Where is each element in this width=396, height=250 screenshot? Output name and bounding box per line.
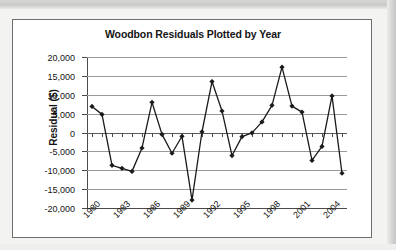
data-point-marker bbox=[279, 65, 284, 70]
x-axis-tick-label: 1980 bbox=[81, 199, 102, 220]
y-axis-tick-label: -10,000 bbox=[44, 166, 75, 176]
y-axis-tick-label: 5,000 bbox=[52, 110, 75, 120]
y-axis-tick-label: -5,000 bbox=[49, 147, 75, 157]
scan-band-right bbox=[387, 0, 396, 250]
data-point-marker bbox=[129, 169, 134, 174]
data-point-marker bbox=[199, 129, 204, 134]
series-polyline bbox=[92, 67, 342, 200]
y-axis-tick-label: 10,000 bbox=[47, 91, 75, 101]
data-point-marker bbox=[229, 153, 234, 158]
data-point-marker bbox=[159, 132, 164, 137]
data-series-line bbox=[87, 57, 347, 208]
scan-band-top bbox=[0, 0, 396, 9]
y-axis-tick-label: 20,000 bbox=[47, 53, 75, 63]
data-point-marker bbox=[119, 166, 124, 171]
data-point-marker bbox=[189, 197, 194, 202]
data-point-marker bbox=[329, 93, 334, 98]
y-axis-tick-label: -20,000 bbox=[44, 204, 75, 214]
data-point-marker bbox=[109, 163, 114, 168]
chart-title: Woodbon Residuals Plotted by Year bbox=[13, 28, 373, 40]
y-axis-tick-label: 0 bbox=[70, 129, 75, 139]
data-point-marker bbox=[239, 134, 244, 139]
screenshot-root: Woodbon Residuals Plotted by Year Residu… bbox=[0, 0, 396, 250]
plot-area: 20,00015,00010,0005,0000-5,000-10,000-15… bbox=[87, 57, 347, 208]
data-point-marker bbox=[219, 108, 224, 113]
data-point-marker bbox=[139, 145, 144, 150]
data-point-marker bbox=[209, 79, 214, 84]
chart-card: Woodbon Residuals Plotted by Year Residu… bbox=[12, 19, 372, 238]
scan-band-bottom bbox=[0, 244, 396, 250]
data-point-marker bbox=[339, 171, 344, 176]
y-axis-tick-label: 15,000 bbox=[47, 72, 75, 82]
y-axis-tick-label: -15,000 bbox=[44, 185, 75, 195]
data-point-marker bbox=[149, 100, 154, 105]
